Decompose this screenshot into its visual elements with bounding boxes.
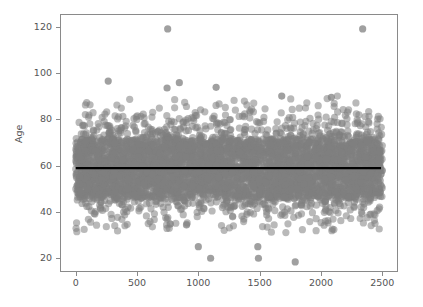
y-tick-label: 120 bbox=[34, 22, 52, 32]
plot-area bbox=[60, 14, 398, 272]
y-tick-mark bbox=[56, 119, 60, 120]
y-tick-mark bbox=[56, 73, 60, 74]
scatter-plot-figure: Age 20406080100120 05001000150020002500 bbox=[0, 0, 423, 307]
y-tick-label: 40 bbox=[40, 207, 52, 217]
x-tick-mark bbox=[321, 272, 322, 276]
y-tick-mark bbox=[56, 27, 60, 28]
x-tick-label: 1000 bbox=[186, 278, 210, 288]
x-tick-mark bbox=[76, 272, 77, 276]
y-tick-label: 20 bbox=[40, 254, 52, 264]
x-tick-label: 2000 bbox=[309, 278, 333, 288]
x-tick-mark bbox=[198, 272, 199, 276]
y-tick-label: 100 bbox=[34, 68, 52, 78]
y-tick-label: 80 bbox=[40, 115, 52, 125]
y-tick-mark bbox=[56, 212, 60, 213]
x-tick-mark bbox=[260, 272, 261, 276]
x-tick-label: 0 bbox=[73, 278, 79, 288]
y-tick-mark bbox=[56, 166, 60, 167]
x-tick-mark bbox=[382, 272, 383, 276]
x-tick-label: 1500 bbox=[248, 278, 272, 288]
y-tick-label: 60 bbox=[40, 161, 52, 171]
x-tick-label: 500 bbox=[128, 278, 146, 288]
x-tick-label: 2500 bbox=[370, 278, 394, 288]
y-tick-mark bbox=[56, 258, 60, 259]
x-tick-mark bbox=[137, 272, 138, 276]
scatter-points-canvas bbox=[61, 15, 397, 271]
y-axis-tick-labels: 20406080100120 bbox=[0, 0, 52, 307]
